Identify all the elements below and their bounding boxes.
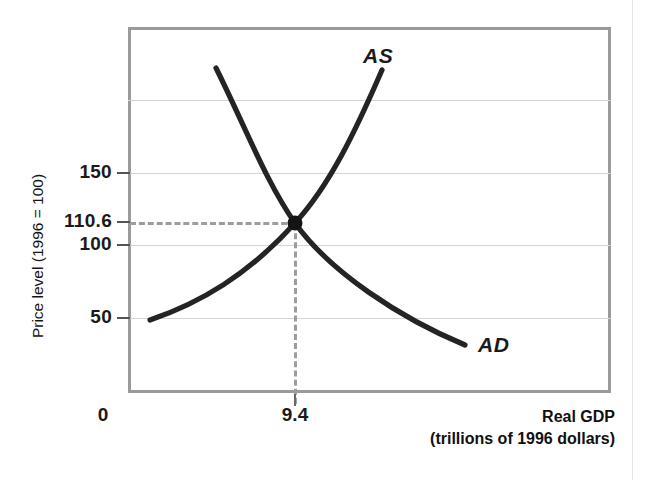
- y-axis-title: Price level (1996 = 100): [29, 146, 47, 366]
- ytick-110-6: [117, 221, 130, 223]
- x-axis-title-line1: Real GDP: [330, 408, 615, 426]
- as-curve-label: AS: [363, 44, 393, 68]
- gridline-50: [128, 318, 611, 319]
- x-axis-title-line2: (trillions of 1996 dollars): [330, 430, 615, 448]
- page-edge-rule: [632, 0, 633, 480]
- gridline-200: [128, 100, 611, 101]
- ytick-50: [117, 317, 130, 319]
- equilibrium-gdp-guide: [294, 224, 297, 404]
- ytick-150: [117, 172, 130, 174]
- as-ad-figure: 150 110.6 100 50 Price level (1996 = 100…: [0, 0, 651, 480]
- ad-curve-label: AD: [478, 333, 509, 357]
- plot-frame: [128, 27, 611, 393]
- xtick-label-0: 0: [78, 404, 128, 426]
- ytick-100: [117, 244, 130, 246]
- gridline-150: [128, 173, 611, 174]
- equilibrium-price-guide: [130, 222, 296, 225]
- gridline-100: [128, 245, 611, 246]
